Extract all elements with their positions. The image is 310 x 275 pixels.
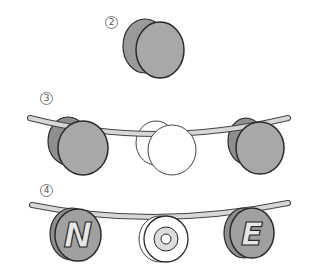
- illustration: N O E: [0, 0, 310, 275]
- step-3-assembly: [30, 117, 288, 175]
- letter-e: E: [241, 215, 263, 253]
- step-2-discs: [123, 19, 184, 78]
- letter-n: N: [64, 215, 92, 255]
- step-4-assembly: N O E: [32, 203, 288, 262]
